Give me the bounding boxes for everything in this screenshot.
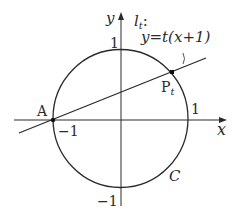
x-axis-label: x bbox=[217, 122, 226, 138]
y-tick-neg: −1 bbox=[97, 194, 118, 208]
line-lt bbox=[19, 58, 206, 133]
point-a bbox=[51, 118, 55, 122]
point-pt-name: P bbox=[161, 79, 170, 95]
point-pt bbox=[170, 70, 174, 74]
y-axis-label: y bbox=[106, 11, 114, 26]
point-a-label: A bbox=[37, 104, 47, 118]
point-pt-label: Pt bbox=[161, 80, 174, 97]
circle-label: C bbox=[169, 169, 180, 184]
x-tick-pos: 1 bbox=[191, 102, 200, 116]
leader-line bbox=[183, 53, 185, 64]
x-tick-neg: −1 bbox=[58, 124, 79, 138]
point-pt-sub: t bbox=[170, 86, 174, 97]
diagram-canvas: y lt: y=t(x+1) 1 −1 1 −1 x A Pt C bbox=[0, 0, 243, 219]
y-axis-arrow-icon bbox=[118, 12, 124, 20]
line-equation: y=t(x+1) bbox=[141, 30, 210, 45]
y-tick-pos: 1 bbox=[110, 36, 119, 50]
